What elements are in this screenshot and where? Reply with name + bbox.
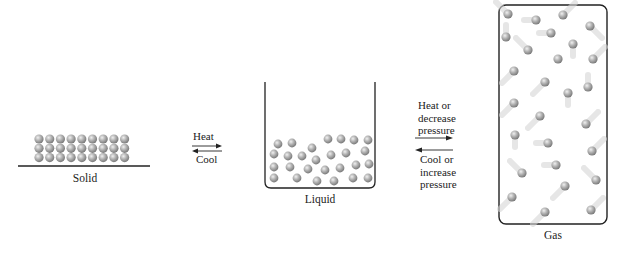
- label-line: decrease: [418, 112, 456, 125]
- particle: [560, 181, 569, 190]
- particle: [313, 177, 322, 186]
- particle: [56, 153, 65, 162]
- particle: [270, 150, 279, 159]
- particle: [120, 134, 129, 143]
- particle: [298, 152, 307, 161]
- particle: [583, 82, 592, 91]
- particle: [77, 144, 86, 153]
- particle: [543, 138, 552, 147]
- particle: [34, 144, 43, 153]
- phase-diagram: Solid Heat Cool Liquid Heat or decrease …: [0, 0, 623, 256]
- particle: [304, 165, 313, 174]
- liquid-label: Liquid: [295, 193, 345, 206]
- particle: [45, 153, 54, 162]
- particle: [45, 134, 54, 143]
- particle: [531, 15, 540, 24]
- heat-label: Heat: [193, 130, 214, 143]
- particle: [270, 163, 279, 172]
- particle: [361, 147, 370, 156]
- particle: [327, 151, 336, 160]
- label-line: Heat or: [418, 99, 456, 112]
- particle: [286, 163, 295, 172]
- particle: [509, 66, 518, 75]
- solid-label: Solid: [60, 172, 110, 185]
- particle: [591, 175, 600, 184]
- particle: [563, 88, 572, 97]
- particle: [67, 134, 76, 143]
- particle: [34, 153, 43, 162]
- gas-particles: [496, 2, 605, 224]
- particle: [501, 32, 510, 41]
- particle: [364, 136, 373, 145]
- particle: [349, 174, 358, 183]
- particle: [293, 174, 302, 183]
- particle: [553, 54, 562, 63]
- particle: [342, 149, 351, 158]
- particle: [588, 54, 597, 63]
- particle: [509, 98, 518, 107]
- liquid-gas-arrows: [415, 136, 453, 153]
- arrow-right-icon: [216, 144, 222, 149]
- solid-liquid-arrows: [192, 144, 222, 154]
- particle: [109, 153, 118, 162]
- particle: [308, 144, 317, 153]
- label-line: pressure: [418, 124, 456, 137]
- particle: [350, 136, 359, 145]
- liquid-state: [265, 82, 375, 188]
- particle: [88, 134, 97, 143]
- particle: [540, 77, 549, 86]
- particle: [336, 164, 345, 173]
- particle: [352, 161, 361, 170]
- particle: [551, 160, 560, 169]
- particle: [120, 153, 129, 162]
- particle: [586, 205, 595, 214]
- particle: [365, 160, 374, 169]
- arrow-left-icon: [415, 148, 422, 153]
- label-line: Cool or: [420, 153, 457, 166]
- particle: [77, 134, 86, 143]
- particle: [546, 28, 555, 37]
- gas-state: [496, 2, 607, 224]
- particle: [67, 144, 76, 153]
- particle: [585, 21, 594, 30]
- particle: [99, 144, 108, 153]
- particle: [535, 111, 544, 120]
- particle: [67, 153, 76, 162]
- solid-state: [18, 134, 150, 166]
- particle: [330, 177, 339, 186]
- particle: [88, 153, 97, 162]
- particle: [77, 153, 86, 162]
- particle: [558, 10, 567, 19]
- particle: [34, 134, 43, 143]
- particle: [337, 135, 346, 144]
- particle: [45, 144, 54, 153]
- liquid-particles: [270, 135, 374, 186]
- particle: [540, 207, 549, 216]
- liquid-beaker: [265, 82, 375, 188]
- label-line: pressure: [420, 178, 457, 191]
- particle: [88, 144, 97, 153]
- particle: [587, 146, 596, 155]
- particle: [270, 174, 279, 183]
- particle: [517, 168, 526, 177]
- particle: [568, 39, 577, 48]
- cool-or-increase-pressure-label: Cool or increase pressure: [420, 153, 457, 191]
- particle: [503, 9, 512, 18]
- heat-or-decrease-pressure-label: Heat or decrease pressure: [418, 99, 456, 137]
- particle: [274, 140, 283, 149]
- particle: [321, 166, 330, 175]
- particle: [284, 152, 293, 161]
- label-line: increase: [420, 166, 457, 179]
- particle: [324, 135, 333, 144]
- particle: [99, 134, 108, 143]
- cool-label: Cool: [196, 153, 217, 166]
- particle: [99, 153, 108, 162]
- particle: [109, 134, 118, 143]
- particle: [288, 139, 297, 148]
- particle: [507, 192, 516, 201]
- particle: [364, 174, 373, 183]
- particle: [581, 119, 590, 128]
- particle: [312, 156, 321, 165]
- particle: [109, 144, 118, 153]
- gas-label: Gas: [530, 229, 576, 242]
